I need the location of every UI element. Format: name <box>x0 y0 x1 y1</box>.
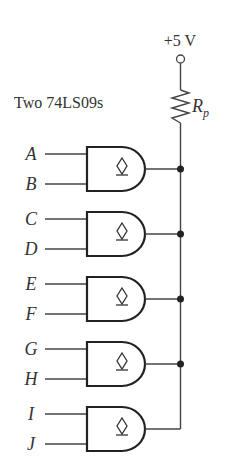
junction-dot-icon <box>177 361 184 368</box>
input-label: B <box>26 174 37 194</box>
input-label: D <box>24 239 38 259</box>
input-label: I <box>27 404 35 424</box>
and-gate-icon <box>87 342 145 386</box>
supply-voltage-label: +5 V <box>164 32 197 49</box>
input-label: A <box>25 144 38 164</box>
input-label: H <box>24 369 39 389</box>
and-gate-icon <box>87 147 145 191</box>
junction-dot-icon <box>177 166 184 173</box>
input-label: F <box>25 304 38 324</box>
input-label: C <box>25 209 38 229</box>
and-gate-4: GH <box>24 339 185 389</box>
input-label: E <box>25 274 37 294</box>
input-label: J <box>27 434 36 454</box>
resistor-label: Rp <box>191 96 209 120</box>
and-gate-icon <box>87 277 145 321</box>
circuit-diagram: +5 V Rp Two 74LS09s ABCDEFGHIJ <box>0 0 230 476</box>
pullup-resistor-icon <box>172 90 189 123</box>
input-label: G <box>25 339 38 359</box>
junction-dot-icon <box>177 296 184 303</box>
and-gate-icon <box>87 212 145 256</box>
chip-label: Two 74LS09s <box>14 94 103 111</box>
and-gate-1: AB <box>25 144 185 194</box>
junction-dot-icon <box>177 231 184 238</box>
and-gate-2: CD <box>24 209 185 259</box>
and-gate-icon <box>87 407 145 451</box>
and-gate-5: IJ <box>27 404 181 454</box>
and-gate-3: EF <box>25 274 185 324</box>
supply-terminal-icon <box>177 55 185 63</box>
